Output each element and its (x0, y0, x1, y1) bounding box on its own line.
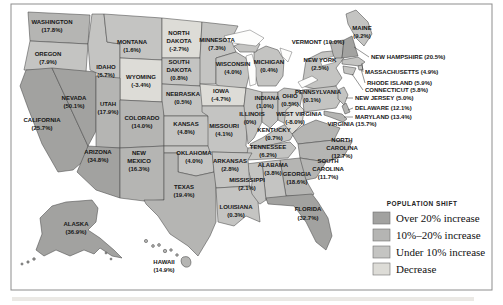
state-value: (0.8%) (170, 75, 188, 81)
state-label: RHODE ISLAND (5.9%) (367, 80, 432, 86)
state-value: (1.6%) (123, 47, 141, 53)
state-label: MEXICO (127, 158, 151, 164)
state-label: OKLAHOMA (176, 150, 212, 156)
state-label: LOUISIANA (220, 204, 254, 210)
state-label: DELAWARE (12.1%) (355, 105, 412, 111)
state-value: (32.7%) (297, 215, 318, 221)
hawaii-island (176, 254, 179, 257)
state-label: NEW JERSEY (5.0%) (355, 95, 414, 101)
state-value: (17.8%) (41, 27, 62, 33)
state-value: (14.9%) (153, 267, 174, 273)
state-label: WASHINGTON (31, 19, 72, 25)
state-label: CAROLINA (326, 145, 358, 151)
legend-label-decrease: Decrease (396, 263, 436, 275)
state-value: (12.7%) (331, 153, 352, 159)
state-label: DAKOTA (166, 67, 192, 73)
state-label: MINNESOTA (199, 37, 235, 43)
state-value: (0.3%) (227, 212, 245, 218)
state-label: IOWA (213, 88, 230, 94)
state-label: IDAHO (96, 64, 116, 70)
state-value: (0.7%) (265, 135, 283, 141)
state-label: NEW HAMPSHIRE (20.5%) (371, 54, 445, 60)
state-value: (-2.7%) (169, 46, 189, 52)
state-label: PENNSYLVANIA (295, 89, 342, 95)
state-label: CAROLINA (312, 166, 344, 172)
state-label: ARIZONA (84, 149, 112, 155)
legend-label-10to20: 10%–20% increase (396, 229, 481, 241)
state-label: GEORGIA (283, 171, 312, 177)
state-value: (14.0%) (131, 123, 152, 129)
legend-label-under10: Under 10% increase (396, 246, 485, 258)
state-value: (2.8%) (221, 166, 239, 172)
panhandle-island (110, 258, 112, 260)
state-shape-massachusetts (342, 57, 365, 66)
state-value: (3.8%) (264, 170, 282, 176)
state-label: DAKOTA (166, 38, 192, 44)
state-label: CONNECTICUT (5.8%) (365, 87, 428, 93)
state-label: INDIANA (255, 95, 281, 101)
state-label: ALASKA (64, 221, 90, 227)
hawaii-island (144, 239, 147, 242)
hawaii-big-island (181, 257, 191, 268)
state-value: (4.1%) (215, 131, 233, 137)
state-value: (19.4%) (173, 192, 194, 198)
state-value: (6.7%) (97, 72, 115, 78)
aleutian-island (33, 258, 36, 261)
state-label: WISCONSIN (216, 61, 251, 67)
state-value: (4.8%) (177, 129, 195, 135)
us-population-shift-map: WASHINGTON (17.8%) OREGON (7.9%) CALIFOR… (0, 0, 503, 305)
state-shape-new-hampshire (342, 36, 358, 58)
state-shape-wyoming (120, 58, 162, 102)
state-label: WYOMING (126, 74, 156, 80)
state-label: NORTH (168, 30, 189, 36)
state-label: NORTH (331, 137, 352, 143)
state-value: (9.2%) (353, 33, 371, 39)
state-value: (6.2%) (259, 152, 277, 158)
state-label: MICHIGAN (254, 59, 284, 65)
state-value: (0.5%) (174, 99, 192, 105)
state-label: VIRGINIA (15.7%) (327, 121, 376, 127)
state-label: UTAH (100, 101, 116, 107)
state-label: ILLINOIS (239, 111, 264, 117)
legend-swatch-over20 (373, 212, 390, 224)
state-value: (0%) (244, 119, 257, 125)
state-value: (7.3%) (208, 45, 226, 51)
legend-swatch-under10 (373, 246, 390, 258)
state-label: TEXAS (174, 184, 194, 190)
state-value: (4.0%) (185, 158, 203, 164)
state-value: (18.6%) (286, 179, 307, 185)
state-label: MASSACHUSETTS (4.9%) (365, 69, 438, 75)
state-shape-florida (266, 194, 332, 250)
state-shape-connecticut (343, 66, 356, 75)
panhandle-island (105, 252, 107, 254)
state-value: (11.7%) (318, 174, 339, 180)
state-label: KANSAS (173, 121, 198, 127)
state-value: (16.3%) (128, 166, 149, 172)
state-label: WEST VIRGINIA (276, 111, 322, 117)
legend-swatch-10to20 (373, 229, 390, 241)
legend-swatch-decrease (373, 263, 390, 275)
state-label: ARKANSAS (213, 158, 247, 164)
state-label: MISSOURI (209, 123, 239, 129)
state-label: OREGON (35, 51, 62, 57)
state-label: SOUTH (169, 59, 190, 65)
state-label: MAINE (352, 25, 371, 31)
leader-line-connecticut (352, 74, 363, 90)
state-label: FLORIDA (295, 206, 322, 212)
state-value: (50.1%) (63, 103, 84, 109)
state-label: CALIFORNIA (24, 117, 62, 123)
state-value: (2.5%) (311, 65, 329, 71)
state-label: KENTUCKY (257, 127, 290, 133)
us-population-shift-figure: WASHINGTON (17.8%) OREGON (7.9%) CALIFOR… (0, 0, 503, 305)
state-label: NEBRASKA (166, 91, 201, 97)
state-value: (-8.0%) (285, 119, 305, 125)
state-shape-michigan-lower (254, 46, 284, 86)
aleutian-island (27, 261, 29, 263)
state-value: (0.1%) (303, 97, 321, 103)
hawaii-island (170, 249, 173, 252)
aleutian-island (21, 263, 23, 265)
legend: POPULATION SHIFT Over 20% increase 10%–2… (373, 200, 485, 275)
legend-label-over20: Over 20% increase (396, 212, 480, 224)
state-label: MISSISSIPPI (229, 177, 265, 183)
state-value: (7.9%) (39, 59, 57, 65)
